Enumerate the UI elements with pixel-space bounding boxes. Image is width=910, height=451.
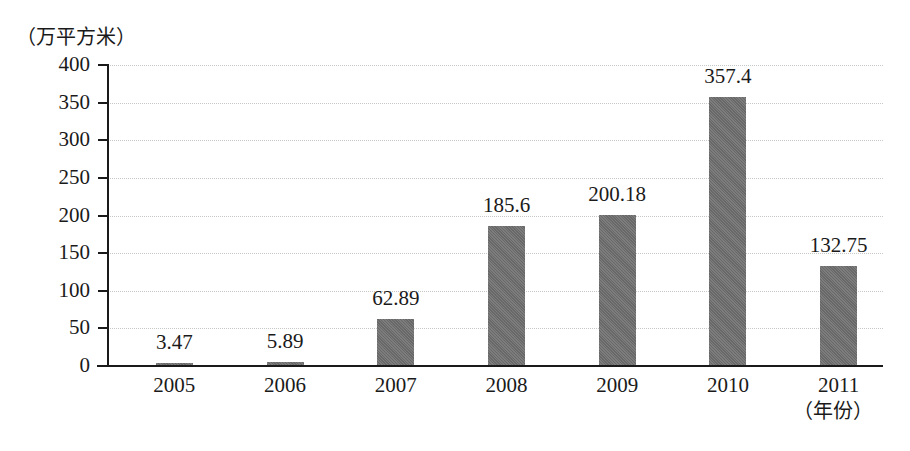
gridline [108,140,883,141]
y-axis-tick-label: 300 [30,129,90,150]
bar-value-label: 5.89 [215,331,355,352]
bar [820,266,857,366]
y-axis-tick-mark [98,177,108,179]
bar [709,97,746,366]
x-axis-tick-label: 2009 [557,374,677,396]
y-axis-tick-label: 150 [30,242,90,263]
bar-value-label: 357.4 [658,66,798,87]
y-axis-tick-label: 0 [30,355,90,376]
x-axis-tick-label: 2010 [668,374,788,396]
y-axis-tick-mark [98,252,108,254]
y-axis-tick-label: 200 [30,205,90,226]
gridline [108,178,883,179]
y-axis-tick-label: 350 [30,92,90,113]
bar [488,226,525,366]
y-axis-tick-mark [98,290,108,292]
y-axis-tick-mark [98,139,108,141]
x-axis-unit-label: （年份） [793,400,873,422]
bar-value-label: 132.75 [769,235,909,256]
gridline [108,103,883,104]
y-axis-tick-label: 100 [30,280,90,301]
x-axis-tick-label: 2008 [447,374,567,396]
y-axis-tick-labels: 050100150200250300350400 [28,0,90,451]
bar-value-label: 62.89 [326,288,466,309]
x-axis-line [97,365,883,367]
bar [599,215,636,366]
y-axis-tick-mark [98,327,108,329]
y-axis-tick-label: 50 [30,317,90,338]
y-axis-tick-mark [98,102,108,104]
x-axis-tick-label: 2011 [779,374,899,396]
bar [377,319,414,366]
bar-chart: （万平方米） 050100150200250300350400 20052006… [0,0,910,451]
y-axis-tick-mark [98,365,108,367]
y-axis-tick-label: 250 [30,167,90,188]
x-axis-tick-label: 2006 [225,374,345,396]
y-axis-tick-mark [98,64,108,66]
y-axis-tick-mark [98,215,108,217]
x-axis-tick-label: 2007 [336,374,456,396]
x-axis-tick-label: 2005 [114,374,234,396]
y-axis-tick-label: 400 [30,54,90,75]
bar-value-label: 200.18 [547,184,687,205]
